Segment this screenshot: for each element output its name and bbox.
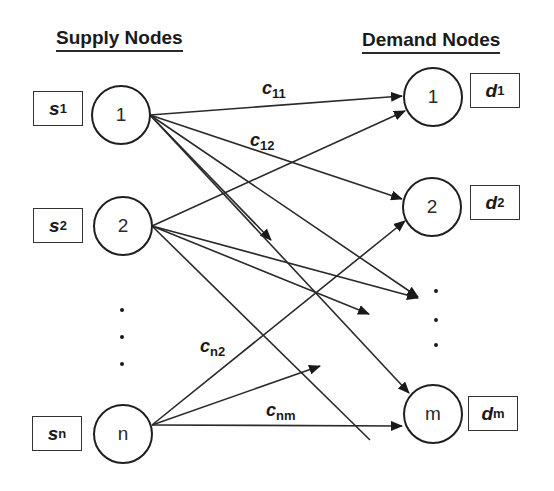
demand-ellipsis-dot	[434, 318, 438, 322]
demand-var: d	[486, 192, 498, 214]
cost-subscript: n2	[210, 344, 225, 359]
cost-subscript: 12	[260, 138, 274, 153]
demand-ellipsis-dot	[434, 343, 438, 347]
cost-var: c	[250, 130, 260, 150]
cost-label-c11: c11	[262, 78, 286, 101]
demand-node-m: m	[403, 384, 463, 444]
supply-ellipsis-dot	[120, 308, 124, 312]
demand-node-2: 2	[402, 177, 462, 237]
supply-subscript: 1	[60, 101, 67, 116]
cost-var: c	[200, 336, 210, 356]
arc-2-short	[152, 226, 369, 314]
supply-node-1: 1	[91, 85, 151, 145]
arc-2-dots	[152, 226, 418, 298]
demand-var: d	[481, 403, 493, 425]
cost-label-cn2: cn2	[200, 336, 225, 359]
supply-var: s	[49, 98, 60, 120]
arc-1-dots	[150, 115, 418, 297]
cost-subscript: 11	[272, 86, 286, 101]
demand-subscript: 2	[497, 195, 504, 210]
supply-ellipsis-dot	[120, 335, 124, 339]
supply-amount-box-1: s1	[33, 91, 83, 126]
cost-var: c	[262, 78, 272, 98]
supply-amount-box-2: s2	[33, 208, 83, 243]
demand-ellipsis-dot	[434, 289, 438, 293]
demand-amount-box-1: d1	[470, 73, 520, 108]
demand-nodes-heading: Demand Nodes	[362, 29, 500, 54]
arc-n-m	[152, 425, 402, 426]
demand-subscript: m	[493, 406, 505, 421]
arc-1-2	[150, 115, 402, 199]
supply-amount-box-n: sn	[32, 416, 82, 451]
demand-var: d	[486, 80, 498, 102]
supply-var: s	[48, 423, 59, 445]
supply-var: s	[49, 215, 60, 237]
supply-subscript: 2	[60, 218, 67, 233]
demand-subscript: 1	[497, 83, 504, 98]
demand-amount-box-m: dm	[468, 396, 518, 431]
supply-nodes-heading: Supply Nodes	[56, 27, 183, 52]
supply-ellipsis-dot	[120, 362, 124, 366]
arc-2-m	[152, 226, 370, 440]
cost-subscript: nm	[276, 408, 296, 423]
supply-node-n: n	[93, 404, 153, 464]
demand-amount-box-2: d2	[470, 185, 520, 220]
cost-var: c	[266, 400, 276, 420]
arc-n-2	[152, 221, 405, 425]
cost-label-c12: c12	[250, 130, 274, 153]
supply-node-2: 2	[93, 196, 153, 256]
supply-subscript: n	[58, 426, 66, 441]
demand-node-1: 1	[403, 67, 463, 127]
cost-label-cnm: cnm	[266, 400, 296, 423]
transportation-network-diagram: Supply Nodes Demand Nodes s1 s2 sn 1 2 n…	[0, 0, 554, 491]
